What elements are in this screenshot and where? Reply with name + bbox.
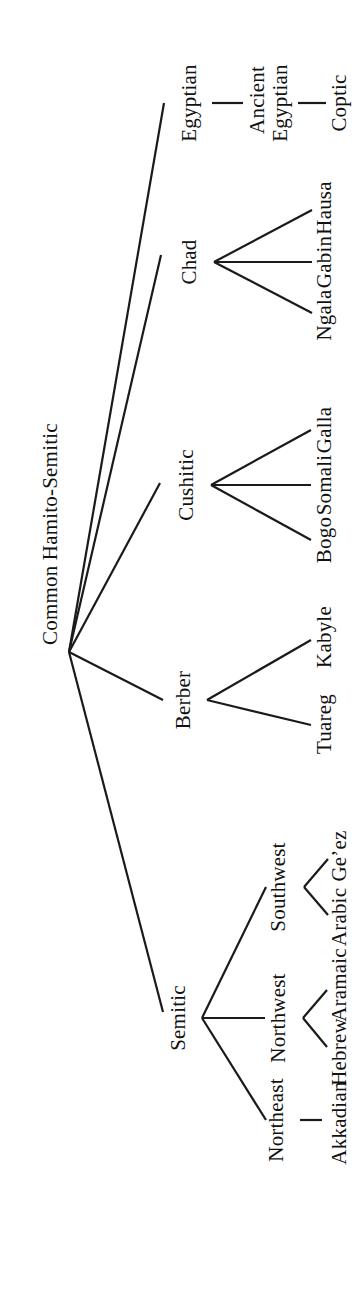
node-label-hausa: Hausa (312, 181, 336, 235)
node-label-ngala: Ngala (312, 289, 336, 341)
node-label-arabic: Arabic (327, 888, 351, 946)
edge-root-semitic (69, 652, 163, 1012)
edge-semitic-southwest (202, 887, 266, 1018)
edge-root-berber (69, 652, 163, 700)
edge-semitic-northeast (202, 1018, 266, 1120)
node-label-semitic: Semitic (166, 985, 190, 1051)
node-label-root: Common Hamito-Semitic (38, 423, 62, 645)
cushitic-edges (211, 430, 311, 540)
node-label-geez: Ge’ez (327, 830, 351, 881)
language-family-tree-figure: Common Hamito-Semitic Egyptian Chad Cush… (0, 0, 363, 1310)
node-label-hebrew: Hebrew (327, 1018, 351, 1086)
node-label-northeast: Northeast (264, 1078, 288, 1161)
edge-root-egyptian (69, 103, 164, 652)
node-label-coptic: Coptic (327, 74, 351, 131)
tree-svg: Common Hamito-Semitic Egyptian Chad Cush… (0, 0, 363, 1310)
edge-berber-tuareg (207, 700, 311, 725)
node-label-southwest: Southwest (266, 842, 290, 931)
node-label-ancient-egyptian-line2: Egyptian (268, 64, 292, 142)
edge-southwest-geez (304, 859, 328, 887)
edge-southwest-arabic (304, 887, 328, 915)
node-label-northwest: Northwest (266, 973, 290, 1062)
node-label-tuareg: Tuareg (312, 694, 336, 754)
edge-chad-ngala (214, 262, 312, 313)
edge-berber-kabyle (207, 640, 311, 700)
berber-edges (207, 640, 311, 725)
node-label-somali: Somali (312, 455, 336, 516)
node-label-cushitic: Cushitic (174, 449, 198, 521)
edge-root-chad (69, 255, 161, 652)
node-label-bogo: Bogo (312, 517, 336, 563)
node-label-berber: Berber (171, 671, 195, 729)
southwest-edges (304, 859, 328, 915)
edge-northwest-hebrew (303, 1018, 327, 1047)
edge-northwest-aramaic (303, 990, 327, 1018)
node-label-akkadian: Akkadian (327, 1081, 351, 1165)
semitic-edges (202, 887, 266, 1120)
node-label-galla: Galla (312, 406, 336, 453)
edge-cushitic-galla (211, 430, 311, 485)
edge-cushitic-bogo (211, 485, 311, 540)
northwest-edges (303, 990, 327, 1047)
node-label-chad: Chad (177, 239, 201, 284)
edge-chad-hausa (214, 210, 312, 262)
chad-edges (214, 210, 312, 313)
node-label-kabyle: Kabyle (312, 606, 336, 668)
node-label-aramaic: Aramaic (327, 948, 351, 1022)
node-label-gabin: Gabin (312, 236, 336, 289)
node-label-egyptian: Egyptian (177, 64, 201, 142)
root-edges (69, 103, 164, 1012)
node-label-ancient-egyptian-line1: Ancient (245, 66, 269, 134)
